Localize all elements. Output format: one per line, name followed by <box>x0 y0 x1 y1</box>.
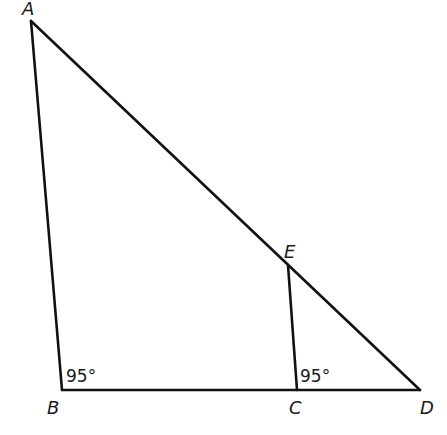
label-E: E <box>284 241 296 262</box>
segment-AD <box>31 21 420 390</box>
label-B: B <box>47 397 59 418</box>
geometry-diagram: A B C D E 95° 95° <box>0 0 447 435</box>
angle-C-label: 95° <box>300 366 330 386</box>
segment-EC <box>288 265 297 390</box>
label-A: A <box>21 0 34 19</box>
segment-AB <box>31 21 62 390</box>
label-D: D <box>420 397 434 418</box>
label-C: C <box>289 397 302 418</box>
angle-B-label: 95° <box>66 366 96 386</box>
